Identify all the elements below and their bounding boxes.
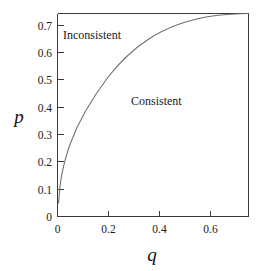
x-tick-label-0: 0: [55, 223, 61, 235]
y-tick-label-0.4: 0.4: [38, 102, 53, 114]
y-tick-label-0.7: 0.7: [38, 20, 53, 32]
phase-diagram-figure: 0.7 0.6 0.5 0.4 0.3 0.2 0.1 0 0 0.2 0.4 …: [0, 0, 261, 271]
y-axis-ticks: [58, 26, 64, 190]
axes-frame-rect: [58, 14, 249, 217]
x-tick-label-0.4: 0.4: [152, 223, 167, 235]
plot-canvas: 0.7 0.6 0.5 0.4 0.3 0.2 0.1 0 0 0.2 0.4 …: [0, 0, 261, 271]
y-tick-label-0.2: 0.2: [38, 156, 53, 168]
y-tick-label-0.1: 0.1: [38, 184, 53, 196]
y-axis-tick-labels: 0.7 0.6 0.5 0.4 0.3 0.2 0.1 0: [38, 20, 53, 223]
y-tick-label-0.6: 0.6: [38, 47, 53, 59]
x-tick-label-0.6: 0.6: [203, 223, 218, 235]
y-tick-label-0.3: 0.3: [38, 129, 53, 141]
x-tick-label-0.2: 0.2: [101, 223, 116, 235]
region-label-inconsistent: Inconsistent: [63, 28, 122, 42]
plot-frame: [58, 14, 249, 217]
x-axis-title: q: [147, 244, 157, 265]
x-axis-tick-labels: 0 0.2 0.4 0.6: [55, 223, 218, 235]
y-axis-title: p: [12, 106, 24, 127]
region-label-consistent: Consistent: [131, 94, 182, 108]
y-tick-label-0.5: 0.5: [38, 74, 53, 86]
consistency-boundary-curve: [59, 14, 249, 204]
y-tick-label-0: 0: [46, 211, 52, 223]
x-axis-ticks: [58, 211, 211, 217]
